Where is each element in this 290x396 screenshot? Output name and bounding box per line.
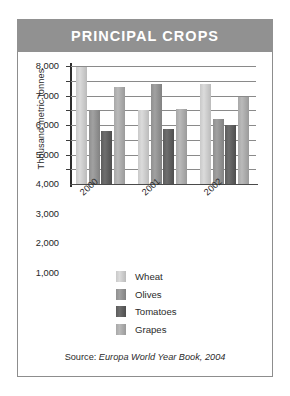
bar-olives-2002	[213, 119, 224, 184]
legend-label-wheat: Wheat	[135, 271, 163, 282]
bar-group	[138, 66, 190, 184]
y-axis-tick-label: 6,000	[36, 120, 59, 130]
legend-swatch-grapes	[116, 324, 126, 335]
legend-swatch-olives	[116, 289, 126, 300]
source-note: Source: Europa World Year Book, 2004	[18, 352, 272, 362]
legend-swatch-wheat	[116, 271, 126, 282]
bar-grapes-2000	[114, 87, 125, 184]
legend-item-olives: Olives	[116, 286, 177, 304]
bar-grapes-2002	[238, 97, 249, 184]
chart-body: Thousand metric tonnes 1,0002,0003,0004,…	[17, 52, 273, 377]
bar-series-layer	[70, 66, 256, 184]
legend-swatch-tomatoes	[116, 306, 126, 317]
y-axis-tick-label: 3,000	[36, 209, 59, 219]
y-axis-label: Thousand metric tonnes	[36, 54, 46, 184]
bar-wheat-2001	[138, 110, 149, 184]
bar-group	[200, 66, 252, 184]
bar-olives-2000	[89, 110, 100, 184]
bar-wheat-2002	[200, 84, 211, 184]
bar-tomatoes-2000	[101, 131, 112, 184]
page-title: PRINCIPAL CROPS	[71, 28, 219, 44]
chart-area: Thousand metric tonnes 1,0002,0003,0004,…	[18, 52, 272, 257]
bar-grapes-2001	[176, 109, 187, 184]
bar-group	[76, 66, 128, 184]
y-axis-tick-label: 5,000	[36, 150, 59, 160]
bar-tomatoes-2001	[163, 129, 174, 184]
chart-legend: WheatOlivesTomatoesGrapes	[116, 268, 177, 338]
plot-area: 1,0002,0003,0004,0005,0006,0007,0008,000…	[70, 66, 256, 184]
legend-item-wheat: Wheat	[116, 268, 177, 286]
title-banner: PRINCIPAL CROPS	[17, 19, 273, 52]
legend-label-tomatoes: Tomatoes	[135, 306, 177, 317]
y-axis-tick-label: 7,000	[36, 91, 59, 101]
legend-label-olives: Olives	[135, 289, 162, 300]
legend-label-grapes: Grapes	[135, 324, 166, 335]
chart-card: PRINCIPAL CROPS Thousand metric tonnes 1…	[17, 19, 273, 377]
bar-tomatoes-2002	[225, 125, 236, 184]
bar-olives-2001	[151, 84, 162, 184]
y-axis-tick-label: 2,000	[36, 238, 59, 248]
y-axis-tick-label: 1,000	[36, 268, 59, 278]
y-axis-tick-label: 4,000	[36, 179, 59, 189]
chart-page: PRINCIPAL CROPS Thousand metric tonnes 1…	[0, 0, 290, 396]
legend-item-tomatoes: Tomatoes	[116, 303, 177, 321]
source-prefix: Source:	[65, 352, 97, 362]
y-axis-tick-label: 8,000	[36, 61, 59, 71]
bar-wheat-2000	[76, 67, 87, 184]
legend-item-grapes: Grapes	[116, 321, 177, 339]
source-reference: Europa World Year Book, 2004	[99, 352, 226, 362]
